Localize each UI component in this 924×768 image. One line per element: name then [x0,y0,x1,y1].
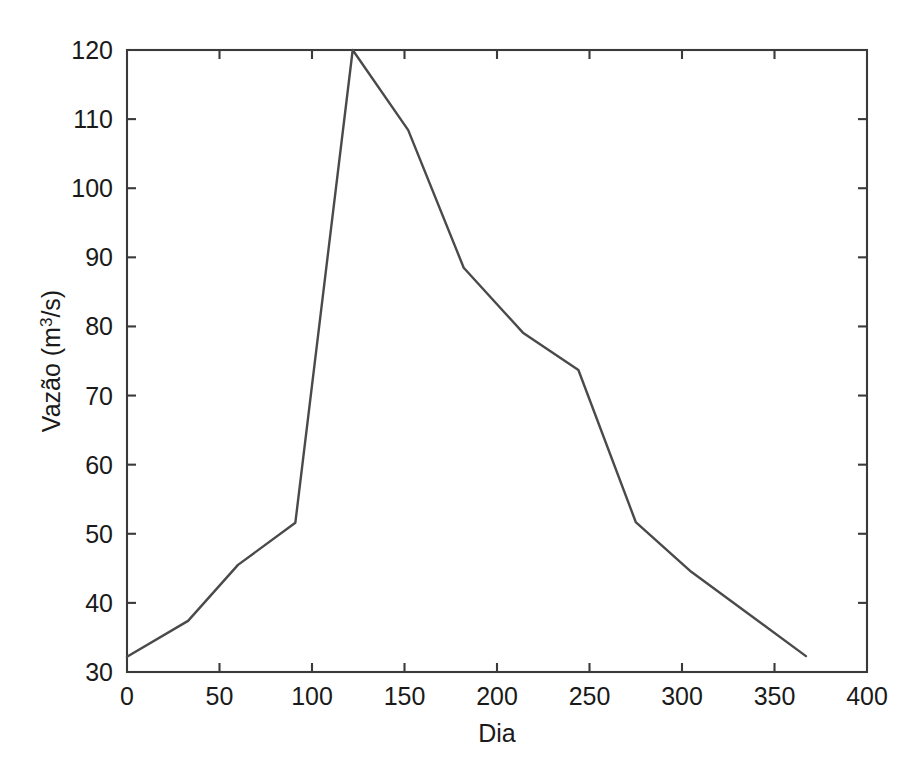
y-tick-label-60: 60 [85,451,113,479]
data-series-group [127,50,806,657]
y-axis-tick-labels: 30405060708090100110120 [71,36,113,686]
y-tick-label-50: 50 [85,520,113,548]
x-tick-label-350: 350 [754,682,796,710]
y-tick-label-30: 30 [85,658,113,686]
x-axis-title: Dia [478,719,516,747]
x-tick-label-0: 0 [120,682,134,710]
y-tick-label-90: 90 [85,243,113,271]
x-axis-ticks-bottom [220,663,775,672]
data-line-Vazão [127,50,806,657]
y-tick-label-120: 120 [71,36,113,64]
x-axis-tick-labels: 050100150200250300350400 [120,682,888,710]
x-axis-ticks-top [220,50,775,59]
y-axis-title-tail: /s) [37,290,65,318]
y-tick-label-40: 40 [85,589,113,617]
y-tick-label-70: 70 [85,382,113,410]
line-chart-svg: 050100150200250300350400 304050607080901… [0,0,924,768]
y-axis-title-superscript: 3 [37,318,56,327]
y-axis-title: Vazão (m3/s) [37,290,65,432]
x-tick-label-300: 300 [661,682,703,710]
y-tick-label-100: 100 [71,174,113,202]
y-axis-ticks-left [127,119,136,603]
x-tick-label-400: 400 [846,682,888,710]
x-tick-label-100: 100 [291,682,333,710]
x-tick-label-50: 50 [206,682,234,710]
y-tick-label-80: 80 [85,312,113,340]
chart-figure: 050100150200250300350400 304050607080901… [0,0,924,768]
y-axis-ticks-right [858,119,867,603]
plot-frame [127,50,867,672]
y-tick-label-110: 110 [73,105,113,133]
x-tick-label-250: 250 [569,682,611,710]
x-tick-label-150: 150 [384,682,426,710]
y-axis-title-base: Vazão (m [37,327,65,432]
x-tick-label-200: 200 [476,682,518,710]
